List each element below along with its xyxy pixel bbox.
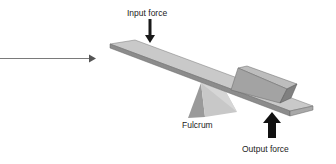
output-force-arrow [263,112,281,138]
output-force-label: Output force [242,145,289,154]
input-force-arrow [145,19,155,43]
lever-diagram [0,0,336,164]
pointer-arrow [0,55,96,63]
input-force-label: Input force [127,9,167,18]
fulcrum-label: Fulcrum [182,121,213,130]
